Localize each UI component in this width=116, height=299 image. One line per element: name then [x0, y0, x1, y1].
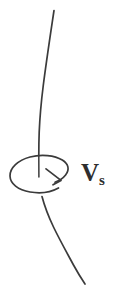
- upper-axis-curve: [39, 11, 54, 156]
- lower-axis-curve: [42, 197, 85, 285]
- figure-canvas: Vs: [0, 0, 116, 299]
- velocity-label: Vs: [81, 160, 105, 185]
- velocity-symbol: V: [81, 159, 99, 186]
- diagram-svg: [0, 0, 116, 299]
- rotation-arrowhead: [46, 169, 61, 185]
- velocity-subscript: s: [99, 172, 105, 188]
